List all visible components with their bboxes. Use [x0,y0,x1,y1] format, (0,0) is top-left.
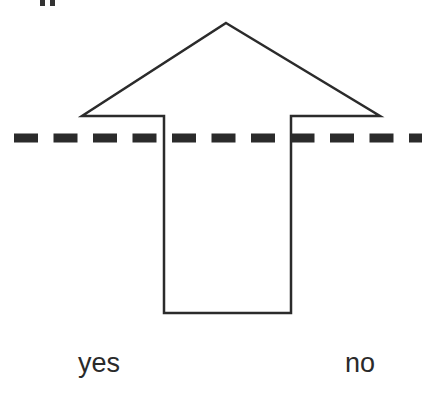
yes-label: yes [78,350,120,377]
arrow-diagram [0,0,422,403]
up-arrow-shape [82,23,380,313]
no-label: no [345,350,375,377]
